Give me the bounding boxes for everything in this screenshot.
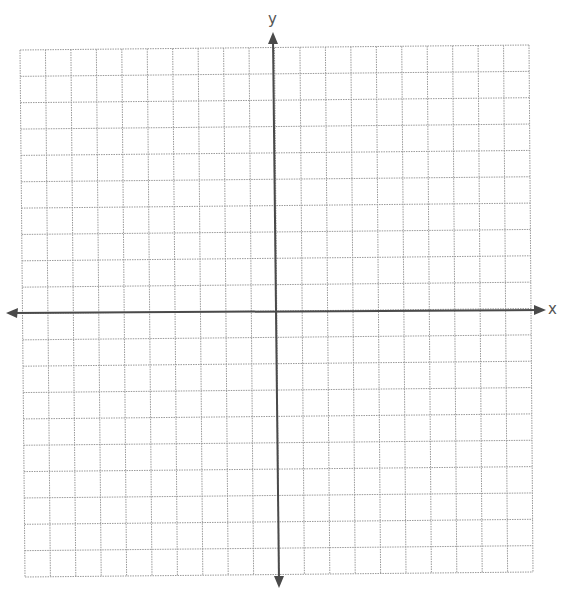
y-axis-top-arrow-icon [268,32,278,44]
coordinate-plane [0,0,570,593]
y-axis-label: y [268,10,277,28]
x-axis-left-arrow-icon [6,308,18,318]
y-axis-bottom-arrow-icon [274,576,284,588]
x-axis-right-arrow-icon [534,305,546,315]
axes [6,32,546,588]
x-axis-label: x [548,300,557,318]
y-axis [273,38,279,582]
